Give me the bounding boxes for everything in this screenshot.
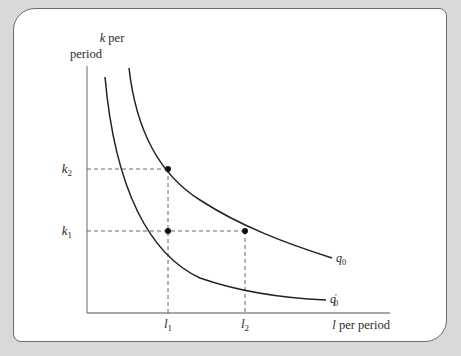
isoquant-q0-prime [105,77,326,300]
point-l1-k1 [165,228,171,234]
curve-label-q0-prime: q′0 [330,292,338,308]
x-tick-l2: l2 [241,316,249,333]
y-tick-k1: k1 [62,223,72,240]
y-axis-label-line2: period [70,47,103,61]
point-l2-k1 [242,228,248,234]
x-axis-label: l per period [332,318,390,332]
guide-lines [87,169,245,313]
x-tick-l1: l1 [164,316,172,333]
isoquant-diagram: k per period k2 k1 l1 l2 q0 q′0 l per pe… [0,0,461,356]
point-l1-k2 [165,166,171,172]
isoquant-q0 [129,68,332,258]
y-axis-label: k per [100,31,125,45]
curve-label-q0: q0 [336,251,346,267]
y-tick-k2: k2 [62,161,72,178]
